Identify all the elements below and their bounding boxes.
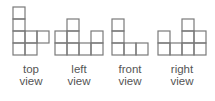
right-view-cell: [182, 31, 194, 43]
right-view-label-line1: right: [157, 63, 207, 75]
top-view-cell: [13, 31, 25, 43]
front-view-label: front view: [105, 63, 155, 87]
right-view-label-line2: view: [157, 75, 207, 87]
front-view-cell: [124, 43, 136, 55]
top-view-cell: [13, 43, 25, 55]
top-view-label-line2: view: [6, 75, 56, 87]
left-view-cell: [55, 31, 67, 43]
right-view-cell: [182, 43, 194, 55]
right-view-cell: [182, 19, 194, 31]
top-view-grid: [13, 7, 49, 55]
left-view-grid: [55, 19, 103, 55]
front-view-cell: [112, 31, 124, 43]
left-view-label-line2: view: [54, 75, 104, 87]
top-view-cell: [25, 43, 37, 55]
right-view-label: right view: [157, 63, 207, 87]
top-view-cell: [37, 31, 49, 43]
right-view-cell: [170, 43, 182, 55]
left-view-cell: [79, 43, 91, 55]
top-view-cell: [25, 31, 37, 43]
left-view-label: left view: [54, 63, 104, 87]
front-view-cell: [136, 43, 148, 55]
top-view-cell: [13, 7, 25, 19]
right-view-cell: [158, 43, 170, 55]
front-view-label-line1: front: [105, 63, 155, 75]
left-view-cell: [55, 43, 67, 55]
right-view-cell: [194, 43, 206, 55]
front-view-cell: [112, 43, 124, 55]
left-view-cell: [67, 43, 79, 55]
orthographic-views-diagram: [0, 0, 215, 60]
front-view-grid: [112, 19, 148, 55]
left-view-cell: [67, 31, 79, 43]
left-view-cell: [91, 31, 103, 43]
top-view-cell: [13, 19, 25, 31]
front-view-label-line2: view: [105, 75, 155, 87]
right-view-cell: [194, 31, 206, 43]
front-view-cell: [112, 19, 124, 31]
left-view-label-line1: left: [54, 63, 104, 75]
right-view-grid: [158, 19, 206, 55]
top-view-label: top view: [6, 63, 56, 87]
right-view-cell: [158, 31, 170, 43]
left-view-cell: [91, 43, 103, 55]
top-view-label-line1: top: [6, 63, 56, 75]
left-view-cell: [67, 19, 79, 31]
